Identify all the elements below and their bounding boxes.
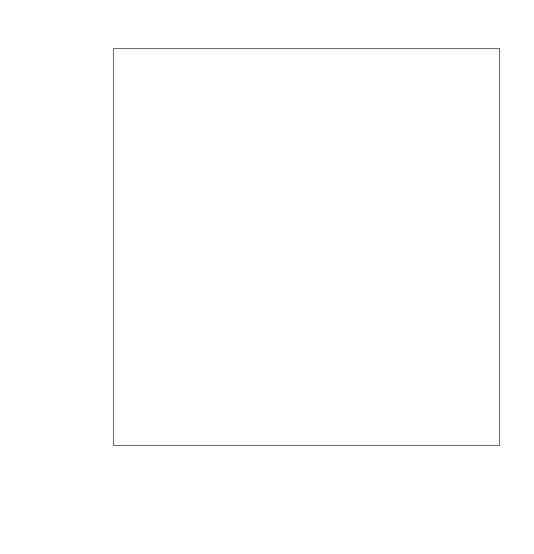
x-axis-tick-marks xyxy=(113,446,501,457)
plot-canvas xyxy=(113,48,500,446)
normal-probability-plot xyxy=(0,0,534,554)
y-axis-tick-marks xyxy=(103,48,114,446)
